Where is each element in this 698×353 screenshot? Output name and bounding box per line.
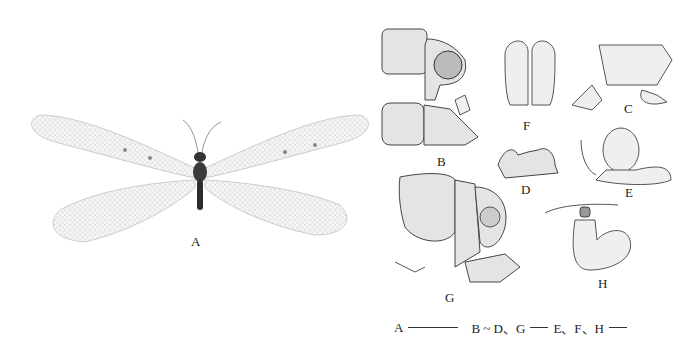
panel-b-illustration — [380, 25, 490, 155]
scale-label-b-d-g: B ~ D、G — [471, 318, 525, 337]
panel-c-structure: C — [567, 40, 677, 120]
panel-g-female-terminalia: G — [395, 172, 535, 312]
panel-label-f: F — [523, 118, 530, 134]
panel-h-illustration — [540, 195, 650, 295]
panel-label-g: G — [445, 290, 454, 306]
panel-label-b: B — [437, 154, 446, 170]
panel-e-structure: E — [576, 125, 686, 200]
panel-f-structure: F — [500, 30, 560, 115]
panel-h-spermatheca: H — [540, 195, 650, 295]
scale-label-a: A — [394, 320, 403, 336]
panel-a-habitus: A — [25, 110, 375, 260]
panel-g-illustration — [395, 172, 535, 312]
scale-bar-legend: A B ~ D、G E、F、H — [394, 318, 632, 337]
panel-c-illustration — [567, 40, 677, 120]
panel-label-h: H — [598, 276, 607, 292]
scale-bar-e-f-h — [609, 327, 627, 328]
scale-bar-b-d-g — [530, 327, 548, 328]
panel-label-a: A — [191, 234, 200, 250]
panel-label-c: C — [624, 101, 633, 117]
scale-label-e-f-h: E、F、H — [553, 318, 604, 337]
panel-b-male-terminalia: B — [380, 25, 490, 155]
panel-f-illustration — [500, 30, 560, 115]
scale-bar-a — [408, 327, 458, 328]
